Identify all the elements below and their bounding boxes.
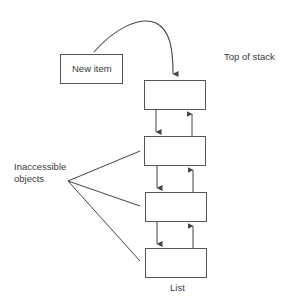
top-of-stack-label: Top of stack <box>224 51 275 63</box>
stack-node-4 <box>146 249 207 278</box>
inaccessible-label-line2: objects <box>14 173 44 185</box>
inaccessible-label-line1: Inaccessible <box>14 161 66 173</box>
stack-node-1 <box>145 81 206 110</box>
stack-node-2 <box>145 137 206 166</box>
new-item-label: New item <box>72 63 112 75</box>
stack-diagram <box>0 0 291 308</box>
list-label: List <box>170 282 185 294</box>
stack-node-3 <box>146 193 207 222</box>
inaccessible-line-1 <box>68 151 140 181</box>
